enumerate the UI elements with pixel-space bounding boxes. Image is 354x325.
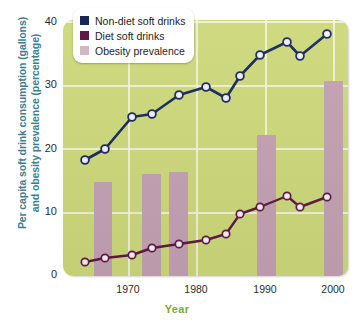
legend-item-non-diet: Non-diet soft drinks [80,13,185,28]
markers-diet [81,192,330,265]
xtick-label-1990: 1990 [240,283,290,295]
line-diet-soft-drinks [85,196,327,262]
chart-figure: Non-diet soft drinks Diet soft drinks Ob… [0,0,354,325]
y-axis-title-line2: and obesity prevalence (percentage) [29,34,41,213]
legend-swatch-icon-diet [80,31,89,40]
y-axis-title-line1: Per capita soft drink consumption (gallo… [16,17,28,229]
legend-label-obesity: Obesity prevalence [95,45,185,57]
xtick-label-1980: 1980 [171,283,221,295]
xtick-label-1970: 1970 [103,283,153,295]
legend-item-diet: Diet soft drinks [80,28,185,43]
xtick-label-2000: 2000 [308,283,354,295]
legend-swatch-icon-non-diet [80,16,89,25]
chart-legend: Non-diet soft drinks Diet soft drinks Ob… [73,8,194,63]
ytick-label-0: 0 [31,268,57,280]
legend-swatch-icon-obesity [80,46,89,55]
legend-label-non-diet: Non-diet soft drinks [95,15,185,27]
y-axis-title: Per capita soft drink consumption (gallo… [16,0,42,248]
legend-item-obesity: Obesity prevalence [80,43,185,58]
legend-label-diet: Diet soft drinks [95,30,164,42]
x-axis-title: Year [0,303,354,315]
